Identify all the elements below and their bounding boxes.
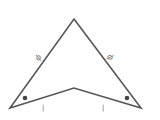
lower-left-tick-mark: | (42, 104, 44, 112)
right-angle-dot-icon (125, 96, 130, 101)
dart-outline (10, 19, 141, 108)
upper-right-side-label: ϕ (105, 52, 116, 62)
left-angle-dot-icon (23, 96, 28, 101)
lower-right-tick-mark: | (102, 104, 104, 112)
upper-left-side-label: ϕ (33, 52, 44, 62)
dart-diagram: ϕ ϕ | | (0, 0, 160, 120)
dart-shape-svg: ϕ ϕ | | (0, 0, 160, 120)
